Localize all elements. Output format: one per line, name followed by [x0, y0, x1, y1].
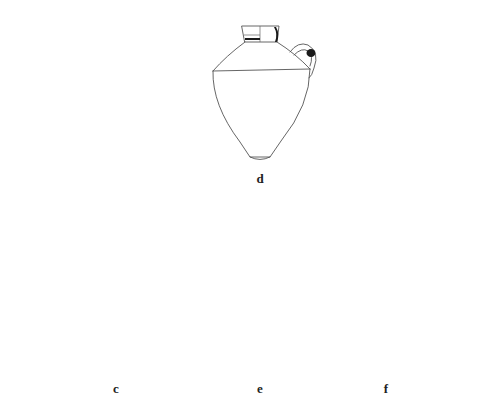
- vessel-d-drawing: [213, 26, 316, 160]
- vessel-label-e: e: [257, 381, 263, 397]
- vessel-label-d: d: [256, 171, 263, 187]
- vessel-plate: [0, 0, 492, 413]
- vessel-label-c: c: [113, 381, 119, 397]
- vessel-label-f: f: [384, 381, 388, 397]
